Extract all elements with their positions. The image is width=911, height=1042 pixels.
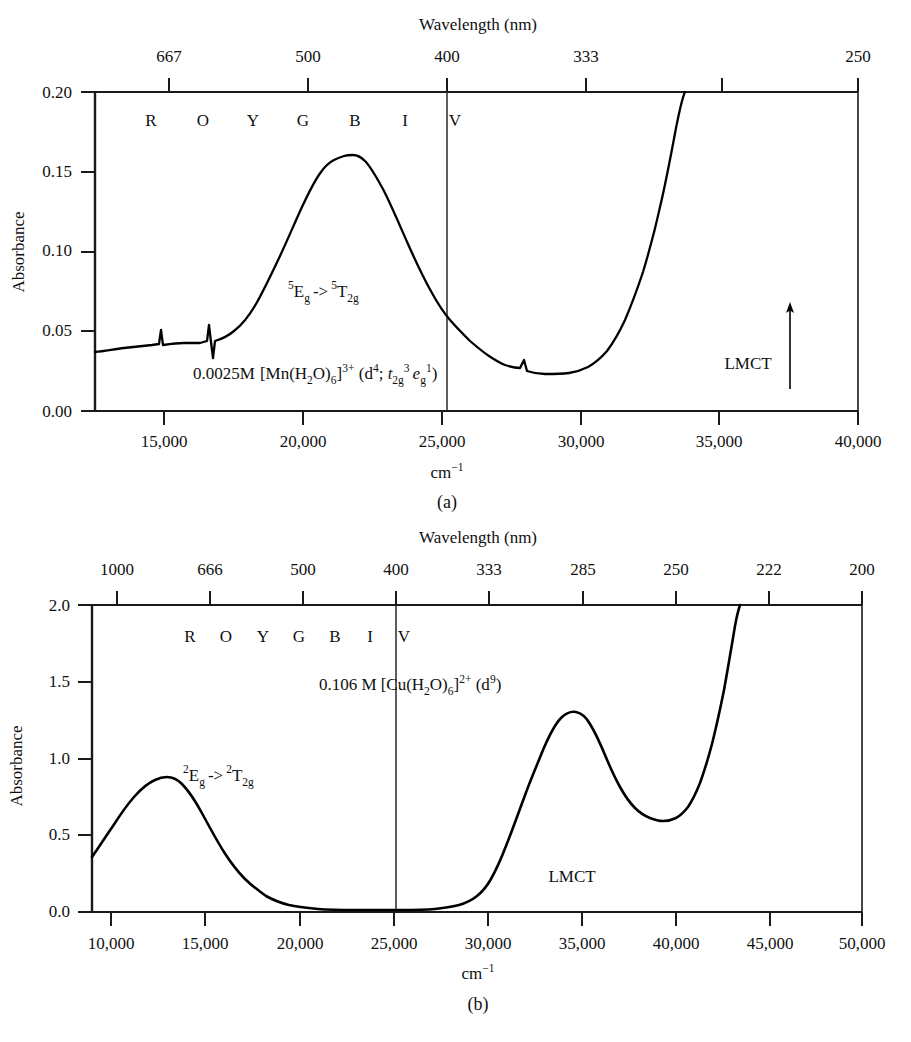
panel-b-color-letter-B: B: [329, 627, 340, 646]
panel-a-bottom-tick-label-35000: 35,000: [696, 432, 743, 451]
panel-b-y-tick-label-0.5: 0.5: [49, 825, 70, 844]
panel-a-bottom-tick-label-40000: 40,000: [835, 432, 882, 451]
panel-a-bottom-tick-label-25000: 25,000: [419, 432, 466, 451]
panel-a-color-letter-R: R: [145, 111, 157, 130]
panel-b-top-tick-label-200: 200: [849, 560, 875, 579]
panel-a-spectrum-curve: [95, 92, 685, 374]
panel-b-transition-label: 2Eg->2T2g: [183, 763, 254, 789]
panel-b-color-letter-G: G: [293, 627, 305, 646]
panel-a-color-letter-G: G: [297, 111, 309, 130]
panel-b-color-letter-V: V: [398, 627, 411, 646]
panel-a-transition-label: 5Eg->5T2g: [288, 279, 359, 305]
panel-b-y-tick-label-0.0: 0.0: [49, 902, 70, 921]
panel-a-color-letter-Y: Y: [247, 111, 259, 130]
panel-b-bottom-axis-title: cm−1: [461, 962, 494, 983]
panel-b-bottom-tick-label-25000: 25,000: [371, 934, 418, 953]
panel-a-top-tick-label-333: 333: [573, 47, 599, 66]
panel-b-bottom-tick-label-15000: 15,000: [182, 934, 229, 953]
panel-b-bottom-tick-label-35000: 35,000: [559, 934, 606, 953]
panel-b-top-tick-label-500: 500: [290, 560, 316, 579]
panel-a-y-tick-label-0.15: 0.15: [42, 162, 72, 181]
panel-a: Wavelength (nm) 667 500 400 333 250 Abso…: [0, 0, 911, 520]
panel-a-top-ticks: [169, 78, 858, 92]
panel-b-top-ticks: [117, 591, 862, 605]
panel-b-y-ticks: [78, 605, 92, 912]
panel-a-lmct-up-arrow-icon: [786, 302, 794, 389]
panel-a-y-ticks: [81, 92, 95, 411]
panel-a-top-axis-title: Wavelength (nm): [419, 15, 537, 34]
panel-a-lmct-label: LMCT: [724, 354, 772, 373]
panel-b-top-axis-title: Wavelength (nm): [419, 528, 537, 547]
panel-b-bottom-tick-label-10000: 10,000: [88, 934, 135, 953]
panel-b-top-tick-label-285: 285: [570, 560, 596, 579]
panel-b-y-tick-label-1.0: 1.0: [49, 749, 70, 768]
panel-a-bottom-tick-label-30000: 30,000: [558, 432, 605, 451]
panel-b-top-tick-label-222: 222: [756, 560, 782, 579]
panel-b-color-letter-O: O: [220, 627, 232, 646]
panel-b-y-tick-label-2.0: 2.0: [49, 596, 70, 615]
panel-a-bottom-axis-title: cm−1: [430, 461, 463, 482]
panel-b-bottom-tick-label-50000: 50,000: [839, 934, 886, 953]
panel-b-bottom-tick-label-20000: 20,000: [277, 934, 324, 953]
panel-a-bottom-tick-label-20000: 20,000: [280, 432, 327, 451]
panel-b-sample-label: 0.106 M[Cu(H2O)6]2+ (d9): [319, 673, 501, 697]
panel-a-y-tick-label-0.00: 0.00: [42, 402, 72, 421]
panel-b: Wavelength (nm) 1000 666 500 400 333 285…: [0, 518, 911, 1042]
panel-b-bottom-tick-label-40000: 40,000: [653, 934, 700, 953]
panel-a-top-tick-label-250: 250: [845, 47, 871, 66]
panel-a-y-tick-label-0.10: 0.10: [42, 241, 72, 260]
panel-a-top-tick-label-400: 400: [434, 47, 460, 66]
panel-a-color-letter-I: I: [402, 111, 408, 130]
panel-a-caption: (a): [437, 492, 457, 513]
panel-a-y-tick-label-0.20: 0.20: [42, 83, 72, 102]
panel-b-lmct-label: LMCT: [548, 867, 596, 886]
panel-a-color-letter-B: B: [349, 111, 360, 130]
panel-b-svg: Wavelength (nm) 1000 666 500 400 333 285…: [0, 518, 911, 1042]
panel-b-y-tick-label-1.5: 1.5: [49, 672, 70, 691]
panel-b-color-letter-R: R: [184, 627, 196, 646]
panel-b-frame: [92, 605, 862, 912]
panel-a-top-tick-label-667: 667: [156, 47, 182, 66]
panel-b-top-tick-label-1000: 1000: [100, 560, 134, 579]
panel-b-top-tick-label-333: 333: [476, 560, 502, 579]
panel-b-color-letter-I: I: [367, 627, 373, 646]
panel-b-bottom-ticks: [111, 912, 862, 926]
panel-a-color-letter-O: O: [197, 111, 209, 130]
panel-b-bottom-tick-label-45000: 45,000: [747, 934, 794, 953]
panel-a-bottom-ticks: [164, 411, 858, 425]
panel-a-color-letter-V: V: [449, 111, 462, 130]
panel-a-top-tick-label-500: 500: [295, 47, 321, 66]
panel-a-bottom-tick-label-15000: 15,000: [141, 432, 188, 451]
panel-a-svg: Wavelength (nm) 667 500 400 333 250 Abso…: [0, 0, 911, 520]
panel-a-sample-label: 0.0025M[Mn(H2O)6]3+ (d4; t2g3eg1): [193, 362, 437, 387]
panel-b-bottom-tick-label-30000: 30,000: [465, 934, 512, 953]
panel-b-color-letter-Y: Y: [257, 627, 269, 646]
panel-b-spectrum-curve: [92, 605, 740, 910]
panel-b-top-tick-label-250: 250: [663, 560, 689, 579]
panel-b-top-tick-label-666: 666: [197, 560, 223, 579]
panel-b-caption: (b): [468, 994, 489, 1015]
panel-a-y-axis-title: Absorbance: [9, 211, 28, 292]
panel-b-top-tick-label-400: 400: [383, 560, 409, 579]
panel-b-y-axis-title: Absorbance: [7, 725, 26, 806]
uv-vis-spectra-figure: Wavelength (nm) 667 500 400 333 250 Abso…: [0, 0, 911, 1042]
panel-a-y-tick-label-0.05: 0.05: [42, 321, 72, 340]
